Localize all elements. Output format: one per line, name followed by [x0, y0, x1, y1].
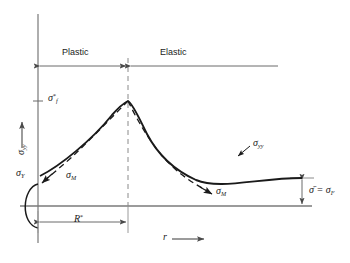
sigma-m-left-label: σM	[66, 170, 76, 181]
sigma-m-right-arrowhead	[200, 187, 212, 194]
yield-stress-label: σY	[16, 168, 24, 179]
sigma-yy-leader	[238, 146, 250, 156]
figure-container: Plastic Elastic σ*f σyy σY σM σM σyy R* …	[0, 0, 350, 263]
x-axis-label: r	[163, 232, 167, 242]
sigma-m-right-label: σM	[216, 186, 226, 197]
sigma-m-right-curve	[128, 101, 208, 191]
plastic-zone-size-label: R*	[74, 214, 83, 224]
sigma-yy-curve-label: σyy	[253, 138, 263, 149]
sigma-m-left-curve	[44, 101, 128, 181]
diagram-canvas	[0, 0, 350, 263]
elastic-region-label: Elastic	[160, 48, 187, 57]
remote-stress-label: σ̄ = σF	[309, 185, 334, 196]
peak-stress-label: σ*f	[48, 93, 58, 104]
sigma-m-left-arrowhead	[42, 174, 52, 183]
y-axis-label: σyy	[16, 145, 27, 155]
plastic-region-label: Plastic	[62, 48, 89, 57]
